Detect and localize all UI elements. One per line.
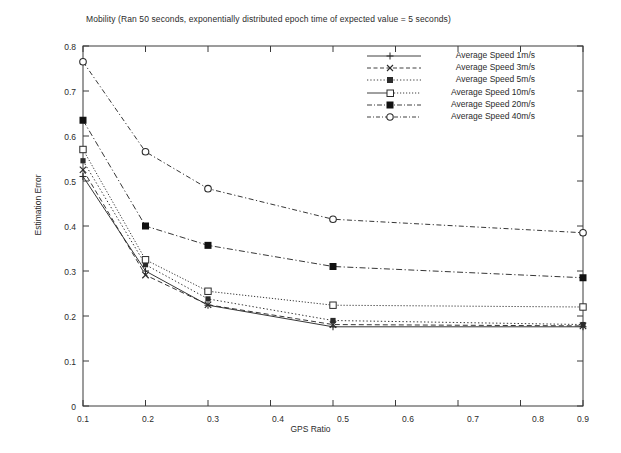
- data-point-marker: [205, 242, 212, 249]
- data-point-marker: [80, 117, 87, 124]
- data-point-marker: [142, 148, 149, 155]
- data-point-marker: [330, 216, 337, 223]
- data-point-marker: [580, 229, 587, 236]
- data-point-marker: [580, 322, 585, 327]
- data-point-marker: [330, 318, 335, 323]
- series-line: [80, 117, 587, 282]
- data-point-marker: [205, 296, 210, 301]
- data-point-marker: [330, 302, 336, 308]
- chart-figure: Mobility (Ran 50 seconds, exponentially …: [0, 0, 621, 453]
- data-point-marker: [142, 257, 148, 263]
- plot-area: [0, 0, 621, 453]
- series-line: [80, 146, 586, 310]
- data-point-marker: [142, 268, 149, 275]
- series-line: [80, 58, 587, 236]
- data-point-marker: [205, 288, 211, 294]
- data-point-marker: [330, 263, 337, 270]
- data-point-marker: [142, 223, 149, 230]
- data-point-marker: [580, 304, 586, 310]
- data-point-marker: [580, 274, 587, 281]
- data-point-marker: [80, 158, 85, 163]
- data-point-marker: [80, 58, 87, 65]
- data-point-marker: [205, 185, 212, 192]
- data-point-marker: [80, 146, 86, 152]
- plot-frame: [83, 46, 583, 406]
